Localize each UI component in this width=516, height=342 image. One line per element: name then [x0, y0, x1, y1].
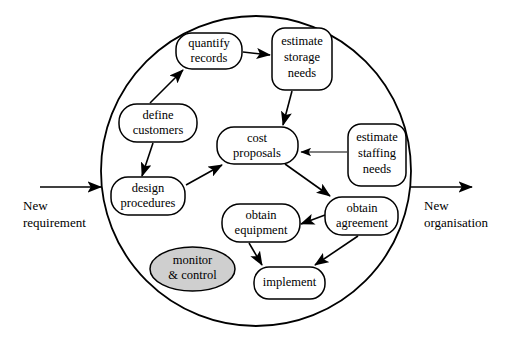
node-design-procedures[interactable]: design procedures: [111, 177, 185, 215]
node-label-line3: needs: [288, 66, 317, 80]
node-estimate-storage-needs[interactable]: estimate storage needs: [272, 28, 332, 90]
node-label-line2: staffing: [358, 146, 397, 160]
node-label-line1: estimate: [356, 130, 398, 144]
edge-agreement-to-implement: [315, 236, 358, 265]
edge-equipment-to-implement: [249, 243, 262, 265]
node-label-line1: obtain: [245, 208, 277, 222]
node-label-line2: & control: [168, 268, 217, 282]
node-label-line2: procedures: [121, 196, 176, 210]
node-label-line1: define: [142, 108, 174, 122]
edge-estimate-storage-to-cost: [283, 91, 292, 125]
node-implement[interactable]: implement: [254, 267, 325, 299]
node-label-line1: design: [132, 181, 165, 195]
node-label-line1: monitor: [173, 253, 213, 267]
input-label-line2: requirement: [23, 215, 86, 230]
process-diagram: quantify records estimate storage needs …: [0, 0, 516, 342]
node-label-line1: estimate: [281, 34, 323, 48]
edge-define-to-design: [142, 143, 153, 176]
output-label-line2: organisation: [424, 215, 489, 230]
edge-agreement-to-equipment: [301, 215, 325, 224]
edge-design-to-cost: [186, 165, 222, 185]
node-cost-proposals[interactable]: cost proposals: [217, 127, 298, 164]
edge-define-to-quantify: [150, 70, 183, 103]
node-estimate-staffing-needs[interactable]: estimate staffing needs: [348, 124, 406, 186]
input-label-line1: New: [23, 198, 48, 213]
node-label-line1: obtain: [346, 201, 378, 215]
node-label-line2: storage: [284, 50, 321, 64]
node-define-customers[interactable]: define customers: [119, 104, 197, 142]
node-label-line1: quantify: [188, 36, 230, 50]
node-label-line2: customers: [133, 123, 184, 137]
node-obtain-agreement[interactable]: obtain agreement: [325, 197, 398, 235]
node-obtain-equipment[interactable]: obtain equipment: [222, 204, 300, 242]
node-label-line2: proposals: [233, 146, 281, 160]
diagram-canvas: quantify records estimate storage needs …: [0, 0, 516, 342]
output-label-line1: New: [424, 198, 449, 213]
node-monitor-control[interactable]: monitor & control: [150, 247, 235, 291]
node-label-line2: agreement: [336, 216, 389, 230]
node-label-line1: implement: [263, 275, 317, 289]
node-label-line2: equipment: [235, 223, 288, 237]
node-quantify-records[interactable]: quantify records: [176, 33, 242, 69]
node-label-line2: records: [191, 51, 228, 65]
node-label-line3: needs: [363, 162, 392, 176]
edge-cost-to-agreement: [285, 164, 330, 196]
node-label-line1: cost: [247, 131, 268, 145]
edge-quantify-to-estimate-storage: [243, 52, 270, 55]
